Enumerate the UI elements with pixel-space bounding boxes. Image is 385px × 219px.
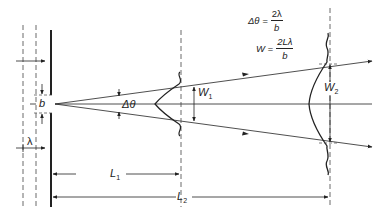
wavelength-label: λ (27, 136, 33, 147)
formula-width-lhs: W = (256, 43, 273, 54)
w1-label: W1 (198, 87, 212, 100)
w2-label-sub: 2 (334, 88, 338, 95)
diffraction-diagram (0, 0, 385, 219)
l1-label-sub: 1 (116, 174, 120, 181)
formula-width: W = 2Lλ b (256, 36, 293, 61)
divergence-angle-label: Δθ (122, 99, 135, 110)
l2-label: L2 (177, 191, 187, 204)
formula-angle: Δθ = 2λ b (248, 8, 283, 33)
formula-angle-lhs: Δθ = (248, 15, 268, 26)
slit-width-label: b (39, 98, 45, 109)
l2-label-sub: 2 (183, 197, 187, 204)
w1-label-main: W (198, 86, 208, 98)
w2-label: W2 (324, 82, 338, 95)
w1-label-sub: 1 (208, 93, 212, 100)
formula-angle-numerator: 2λ (271, 8, 283, 21)
ray-lower-midarrow (242, 132, 249, 136)
formula-angle-denominator: b (274, 21, 279, 33)
l1-label: L1 (110, 168, 120, 181)
formula-width-denominator: b (282, 49, 287, 61)
w2-label-main: W (324, 81, 334, 93)
ray-upper-midarrow (242, 73, 249, 77)
formula-width-numerator: 2Lλ (276, 36, 293, 49)
ray-lower (55, 104, 372, 147)
